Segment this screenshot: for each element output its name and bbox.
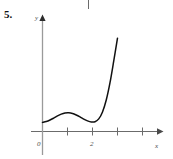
x-axis-label: x bbox=[154, 142, 159, 150]
graph-figure: 0 2 y x bbox=[0, 0, 173, 159]
figure-screenshot: 5. 0 2 y x bbox=[0, 0, 173, 159]
x-tick-label-2: 2 bbox=[90, 140, 94, 148]
y-axis-label: y bbox=[34, 14, 39, 22]
x-tick-label-0: 0 bbox=[37, 140, 41, 148]
x-axis-arrow-icon bbox=[157, 128, 164, 134]
curve-line bbox=[43, 38, 118, 122]
y-axis-arrow-icon bbox=[39, 15, 45, 22]
